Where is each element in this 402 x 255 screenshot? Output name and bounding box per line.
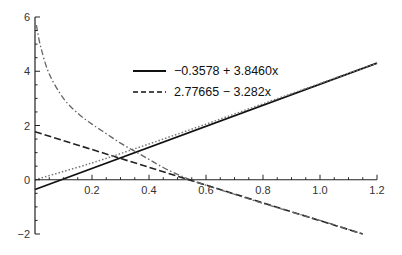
series-dotted-line (35, 63, 377, 180)
chart: −202460.20.40.60.81.01.2 −0.3578 + 3.846… (0, 0, 402, 255)
x-tick-label: 0.6 (198, 184, 213, 196)
x-tick-label: 1.2 (369, 184, 384, 196)
legend-label-dashed: 2.77665 − 3.282x (174, 85, 272, 99)
y-tick-label: 6 (24, 11, 30, 23)
x-tick-label: 1.0 (312, 184, 327, 196)
y-tick-label: 0 (24, 174, 30, 186)
series-solid-line (35, 63, 377, 189)
axes: −202460.20.40.60.81.01.2 (17, 11, 384, 240)
x-tick-label: 0.8 (255, 184, 270, 196)
y-tick-label: 2 (24, 120, 30, 132)
y-tick-label: 4 (24, 65, 30, 77)
legend-label-solid: −0.3578 + 3.8460x (174, 64, 279, 78)
y-tick-label: −2 (17, 228, 30, 240)
x-tick-label: 0.4 (141, 184, 156, 196)
x-tick-label: 0.2 (84, 184, 99, 196)
legend: −0.3578 + 3.8460x 2.77665 − 3.282x (133, 64, 279, 99)
plot-lines (35, 25, 377, 234)
